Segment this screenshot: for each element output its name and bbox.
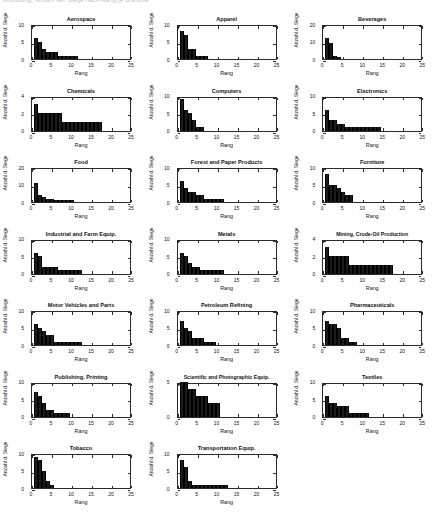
y-tick-mark [128, 347, 131, 348]
x-tick-label: 20 [395, 134, 409, 140]
x-tick-mark [403, 343, 404, 346]
x-tick-label: 10 [210, 420, 224, 426]
x-tick-mark [277, 455, 278, 458]
subplot-electronics: ElectronicsAnzahl d. SiegeRang0510051015… [291, 84, 437, 156]
x-tick-mark [131, 414, 132, 417]
plot-area [31, 168, 131, 203]
x-tick-mark [72, 169, 73, 172]
x-tick-mark [323, 414, 324, 417]
x-tick-mark [383, 312, 384, 315]
x-tick-mark [131, 455, 132, 458]
x-tick-mark [72, 312, 73, 315]
subplot-motor-vehicles-and-parts: Motor Vehicles and PartsAnzahl d. SiegeR… [0, 298, 146, 370]
subplot-aerospace: AerospaceAnzahl d. SiegeRang051005101520… [0, 12, 146, 84]
x-tick-label: 20 [395, 277, 409, 283]
x-tick-label: 25 [124, 491, 138, 497]
bar [224, 485, 228, 489]
x-tick-mark [422, 312, 423, 315]
subplot-title: Chemicals [31, 87, 131, 95]
x-tick-mark [131, 312, 132, 315]
x-tick-label: 20 [104, 420, 118, 426]
x-tick-mark [277, 128, 278, 131]
y-tick-mark [128, 401, 131, 402]
x-tick-mark [32, 455, 33, 458]
clipped-header-text: Abbildung: Anzahl der Siege nach Rang je… [0, 0, 437, 5]
x-tick-label: 0 [315, 420, 329, 426]
x-tick-label: 10 [355, 348, 369, 354]
x-tick-label: 20 [250, 205, 264, 211]
x-tick-mark [52, 384, 53, 387]
x-tick-mark [218, 57, 219, 60]
x-tick-mark [277, 241, 278, 244]
x-tick-mark [277, 26, 278, 29]
y-tick-mark [128, 312, 131, 313]
y-tick-label: 0 [0, 201, 26, 206]
y-tick-label: 5 [146, 112, 172, 117]
x-tick-mark [363, 26, 364, 29]
subplot-title: Computers [177, 87, 277, 95]
x-tick-label: 15 [84, 134, 98, 140]
y-tick-mark [178, 347, 181, 348]
y-tick-label: 4 [0, 94, 26, 99]
y-tick-mark [419, 44, 422, 45]
x-tick-mark [198, 26, 199, 29]
subplot-title: Scientific and Photographic Equip. [177, 373, 277, 381]
x-tick-label: 5 [335, 420, 349, 426]
x-tick-mark [112, 241, 113, 244]
y-tick-label: 5 [291, 183, 317, 188]
x-axis-label: Rang [31, 356, 131, 362]
y-tick-label: 10 [291, 40, 317, 45]
x-tick-mark [92, 57, 93, 60]
y-tick-mark [128, 384, 131, 385]
subplot-metals: MetalsAnzahl d. SiegeRang05100510152025 [146, 227, 292, 299]
x-tick-mark [178, 271, 179, 274]
x-tick-label: 25 [415, 420, 429, 426]
x-tick-mark [383, 57, 384, 60]
x-tick-label: 25 [270, 348, 284, 354]
y-tick-label: 0 [0, 58, 26, 63]
x-tick-mark [72, 241, 73, 244]
x-tick-mark [218, 128, 219, 131]
x-tick-label: 0 [315, 277, 329, 283]
x-tick-mark [403, 384, 404, 387]
x-tick-label: 25 [124, 205, 138, 211]
bar [200, 127, 204, 131]
y-tick-mark [32, 276, 35, 277]
subplot-industrial-and-farm-equip: Industrial and Farm Equip.Anzahl d. Sieg… [0, 227, 146, 299]
y-tick-label: 10 [291, 309, 317, 314]
plot-area [322, 25, 422, 60]
x-tick-mark [112, 384, 113, 387]
subplot-scientific-and-photographic-equip: Scientific and Photographic Equip.Anzahl… [146, 370, 292, 442]
x-tick-mark [131, 200, 132, 203]
x-tick-mark [178, 169, 179, 172]
x-axis-label: Rang [31, 428, 131, 434]
x-tick-label: 25 [415, 348, 429, 354]
y-tick-mark [419, 401, 422, 402]
y-tick-mark [128, 473, 131, 474]
x-axis-label: Rang [31, 213, 131, 219]
x-tick-mark [403, 57, 404, 60]
x-tick-mark [178, 57, 179, 60]
x-axis-label: Rang [177, 428, 277, 434]
x-tick-label: 25 [415, 134, 429, 140]
x-tick-label: 0 [170, 134, 184, 140]
plot-area [177, 240, 277, 275]
x-tick-label: 10 [210, 134, 224, 140]
subplot-title: Beverages [322, 15, 422, 23]
y-tick-mark [128, 61, 131, 62]
y-tick-label: 5 [146, 255, 172, 260]
y-tick-mark [323, 347, 326, 348]
x-tick-label: 20 [395, 348, 409, 354]
y-tick-mark [323, 61, 326, 62]
subplot-title: Mining, Crude-Oil Production [322, 230, 422, 238]
y-tick-label: 10 [0, 183, 26, 188]
x-tick-mark [238, 414, 239, 417]
y-tick-mark [128, 241, 131, 242]
x-tick-label: 0 [170, 491, 184, 497]
y-tick-mark [178, 133, 181, 134]
x-tick-mark [72, 384, 73, 387]
x-tick-mark [198, 455, 199, 458]
subplot-beverages: BeveragesAnzahl d. SiegeRang010200510152… [291, 12, 437, 84]
x-tick-label: 10 [64, 134, 78, 140]
y-tick-label: 5 [291, 398, 317, 403]
